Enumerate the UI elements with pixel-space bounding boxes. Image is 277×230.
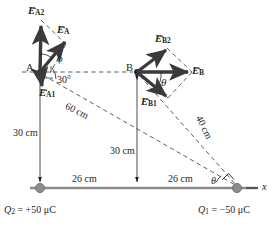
label-vector-E-A1: → EA1: [39, 88, 55, 99]
angle-arc-Q1: [216, 176, 221, 183]
label-vector-E-B2: → EB2: [155, 34, 171, 45]
charge-dot-Q2: [35, 183, 44, 192]
vector-arrow-accent-EA: →: [58, 22, 67, 31]
vector-arrow-accent-EB: →: [193, 63, 202, 72]
label-dim-mid-to-Q1: 26 cm: [168, 174, 193, 184]
label-vector-E-A: → EA: [57, 25, 69, 36]
label-angle-theta-B: θ: [161, 77, 166, 88]
vector-E-A2: [40, 26, 41, 72]
label-axis-x: x: [262, 182, 267, 193]
physics-diagram: → EA2 → EA → EA1 → EB2 → EB → EB1 A B ϕ …: [0, 0, 277, 230]
label-vector-E-A2: → EA2: [28, 6, 44, 17]
field-vectors-at-B: [137, 50, 188, 96]
dash-B-to-Q1-40cm: [140, 76, 237, 186]
angle-arc-30deg: [52, 68, 56, 79]
charge-dot-Q1: [232, 183, 241, 192]
vector-arrow-accent-EA2: →: [29, 3, 38, 12]
vector-arrow-accent-EA1: →: [40, 85, 49, 94]
label-angle-30deg: 30°: [57, 75, 71, 85]
label-charge-Q1: Q1 = −50 μC: [198, 205, 250, 216]
label-vector-E-B1: → EB1: [141, 97, 157, 108]
label-point-B: B: [126, 63, 133, 74]
diagram-canvas: [0, 0, 277, 230]
vector-arrow-accent-EB2: →: [156, 31, 165, 40]
vector-arrow-accent-EB1: →: [142, 94, 151, 103]
label-dim-Q2-to-mid: 26 cm: [72, 174, 97, 184]
dash-B-parallelogram-top: [167, 48, 192, 72]
label-angle-phi: ϕ: [57, 53, 63, 64]
label-point-A: A: [26, 63, 34, 74]
label-dim-B-to-axis: 30 cm: [110, 146, 135, 156]
dashed-construction-lines: [22, 20, 237, 186]
vector-E-B2: [137, 50, 166, 72]
dash-B-parallelogram-bottom: [168, 72, 192, 98]
label-angle-theta-Q1: θ: [211, 176, 216, 186]
label-vector-E-B: → EB: [192, 66, 204, 77]
right-angle-marker: [222, 174, 234, 181]
label-dim-A-to-axis: 30 cm: [13, 128, 38, 138]
label-charge-Q2: Q2 = +50 μC: [4, 205, 56, 216]
